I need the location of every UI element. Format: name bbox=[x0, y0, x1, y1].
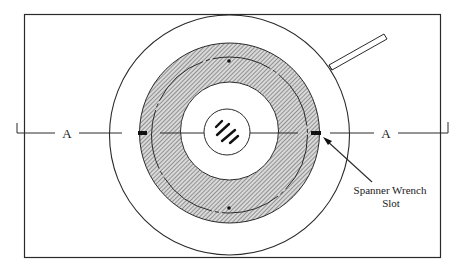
mechanical-diagram: A A Spanner Wrench Slot bbox=[0, 0, 463, 270]
center-circle bbox=[204, 109, 250, 155]
callout-label-line2: Slot bbox=[382, 197, 400, 209]
spanner-wrench-slot-left bbox=[138, 131, 147, 135]
spanner-wrench-slot-right bbox=[311, 131, 321, 135]
section-label-right: A bbox=[381, 126, 391, 141]
reference-dot-top bbox=[227, 59, 231, 63]
section-label-left: A bbox=[62, 126, 72, 141]
reference-dot-bottom bbox=[227, 206, 231, 210]
callout-label-line1: Spanner Wrench bbox=[354, 184, 427, 196]
